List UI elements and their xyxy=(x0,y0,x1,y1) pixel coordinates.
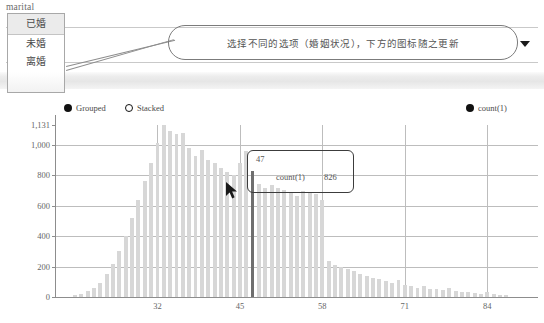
histogram-bar[interactable] xyxy=(441,290,445,297)
tooltip-title: 47 xyxy=(256,154,265,164)
dropdown-option-1[interactable]: 未婚 xyxy=(8,35,64,53)
y-tick-label: 600 xyxy=(4,201,50,211)
dropdown-option-0[interactable]: 已婚 xyxy=(8,14,64,35)
histogram-bar[interactable] xyxy=(289,192,293,297)
tooltip-measure-label: count(1) xyxy=(276,172,305,182)
histogram-bar[interactable] xyxy=(73,295,77,297)
histogram-bar[interactable] xyxy=(346,269,350,297)
histogram-bar[interactable] xyxy=(213,163,217,297)
histogram-bar[interactable] xyxy=(111,264,115,297)
histogram-bar[interactable] xyxy=(466,292,470,297)
histogram-bar[interactable] xyxy=(257,184,261,297)
legend-measure-label: count(1) xyxy=(478,103,507,113)
histogram-bar[interactable] xyxy=(504,295,508,297)
histogram-bar[interactable] xyxy=(409,286,413,297)
histogram-bar[interactable] xyxy=(263,188,267,297)
x-axis-line xyxy=(56,297,538,298)
legend-swatch-icon xyxy=(466,104,474,112)
histogram-bar[interactable] xyxy=(492,294,496,297)
histogram-bar[interactable] xyxy=(92,288,96,297)
histogram-bar[interactable] xyxy=(86,291,90,297)
histogram-bar[interactable] xyxy=(320,200,324,297)
histogram-bar[interactable] xyxy=(454,291,458,297)
histogram-bar[interactable] xyxy=(447,288,451,297)
histogram-bar[interactable] xyxy=(498,295,502,297)
histogram-bar[interactable] xyxy=(194,156,198,297)
radio-unselected-icon[interactable] xyxy=(125,104,133,112)
histogram-bar[interactable] xyxy=(352,271,356,297)
histogram-bar[interactable] xyxy=(371,278,375,297)
histogram-bar[interactable] xyxy=(130,218,134,297)
y-tick-label: 1,131 xyxy=(4,120,50,130)
histogram-bar[interactable] xyxy=(270,185,274,297)
tooltip-measure-value: 826 xyxy=(324,172,337,182)
histogram-bar[interactable] xyxy=(435,289,439,297)
y-tick-label: 200 xyxy=(4,262,50,272)
app-root: marital 已婚 未婚 离婚 选择不同的选项（婚姻状况），下方的图标随之更新… xyxy=(0,0,544,323)
x-tick-label: 84 xyxy=(483,301,492,311)
histogram-bar[interactable] xyxy=(105,274,109,297)
histogram-bar[interactable] xyxy=(282,190,286,297)
marital-dropdown-list[interactable]: 已婚 未婚 离婚 xyxy=(7,13,65,93)
dropdown-option-2[interactable]: 离婚 xyxy=(8,53,64,71)
x-tick-label: 45 xyxy=(236,301,245,311)
histogram-bar[interactable] xyxy=(206,160,210,297)
radio-selected-icon[interactable] xyxy=(64,104,72,112)
histogram-bar[interactable] xyxy=(339,267,343,297)
legend-stacked-label: Stacked xyxy=(137,103,164,113)
histogram-bar[interactable] xyxy=(200,150,204,297)
histogram-bar[interactable] xyxy=(358,274,362,297)
histogram-bar[interactable] xyxy=(428,289,432,297)
histogram-bar[interactable] xyxy=(219,168,223,297)
x-tick-label: 32 xyxy=(153,301,162,311)
histogram-bar[interactable] xyxy=(390,283,394,297)
histogram-bar[interactable] xyxy=(156,143,160,297)
legend-stacked[interactable]: Stacked xyxy=(125,103,164,113)
histogram-bar[interactable] xyxy=(136,200,140,297)
histogram-bar[interactable] xyxy=(384,281,388,297)
histogram-bar[interactable] xyxy=(149,163,153,297)
histogram-bar[interactable] xyxy=(175,134,179,297)
histogram-bar[interactable] xyxy=(422,286,426,297)
y-tick-label: 400 xyxy=(4,231,50,241)
chevron-down-icon[interactable] xyxy=(520,41,530,47)
histogram-bar[interactable] xyxy=(397,280,401,297)
histogram-bar[interactable] xyxy=(143,181,147,297)
histogram-bar[interactable] xyxy=(479,294,483,297)
histogram-bar[interactable] xyxy=(162,125,166,297)
histogram-bar[interactable] xyxy=(485,292,489,297)
histogram-bar[interactable] xyxy=(327,261,331,297)
legend-grouped[interactable]: Grouped xyxy=(64,103,106,113)
histogram-bar[interactable] xyxy=(314,194,318,297)
x-tick-label: 58 xyxy=(318,301,327,311)
decorative-band xyxy=(0,72,544,89)
histogram-bar[interactable] xyxy=(377,279,381,297)
x-tick-label: 71 xyxy=(401,301,410,311)
mouse-cursor-icon xyxy=(226,182,240,200)
histogram-bar[interactable] xyxy=(365,276,369,297)
legend-grouped-label: Grouped xyxy=(76,103,106,113)
histogram-bar[interactable] xyxy=(460,292,464,297)
chart-tooltip: 47 count(1) 826 xyxy=(247,150,354,193)
y-tick-mark xyxy=(52,297,56,298)
histogram-bar[interactable] xyxy=(79,294,83,297)
histogram-bar[interactable] xyxy=(276,188,280,297)
histogram-bar[interactable] xyxy=(124,236,128,297)
histogram-bar[interactable] xyxy=(416,288,420,297)
histogram-bar[interactable] xyxy=(117,251,121,297)
histogram-bar[interactable] xyxy=(295,196,299,297)
histogram-bar[interactable] xyxy=(403,285,407,297)
histogram-bar[interactable] xyxy=(308,192,312,297)
histogram-bar[interactable] xyxy=(98,283,102,297)
y-tick-label: 0 xyxy=(4,292,50,302)
histogram-bar[interactable] xyxy=(181,133,185,297)
histogram-bar[interactable] xyxy=(333,265,337,297)
y-tick-label: 800 xyxy=(4,170,50,180)
histogram-bar[interactable] xyxy=(473,293,477,297)
legend-measure[interactable]: count(1) xyxy=(466,103,507,113)
histogram-bar[interactable] xyxy=(301,191,305,297)
y-tick-label: 1,000 xyxy=(4,140,50,150)
histogram-bar[interactable] xyxy=(187,148,191,297)
field-label: marital xyxy=(6,2,34,12)
histogram-bar[interactable] xyxy=(168,131,172,297)
